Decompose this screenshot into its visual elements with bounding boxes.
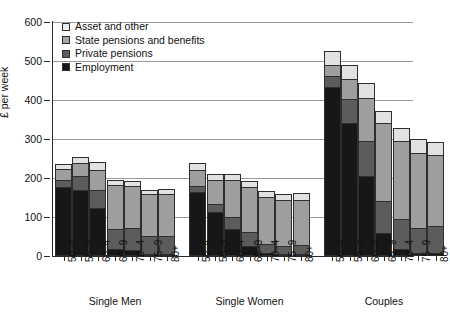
x-tick-label: 70–4 [405,240,415,262]
bar-segment-asset [376,112,391,124]
bar-segment-private [376,201,391,233]
bar-segment-state [411,153,426,229]
group-label-single-women: Single Women [189,295,309,307]
x-tick-label: 55–9 [85,240,95,262]
bar-segment-state [294,200,309,245]
x-tick [284,256,285,261]
y-tick-label-0: 0 [36,251,42,261]
x-tick-label: 70–4 [271,240,281,262]
bar-segment-private [225,217,240,229]
bar-segment-state [208,180,223,204]
bar-segment-asset [359,84,374,98]
x-tick [198,256,199,261]
bar-segment-private [208,204,223,212]
y-tick-label-300: 300 [24,134,42,144]
x-tick-label: 75–9 [154,240,164,262]
legend-item: Private pensions [62,47,205,61]
legend-label: Private pensions [75,48,153,59]
x-tick [418,256,419,261]
x-tick-label: 65–9 [119,240,129,262]
x-tick [232,256,233,261]
bar-segment-private [359,141,374,176]
y-tick-400 [44,100,50,101]
x-tick [64,256,65,261]
x-tick-label: 60–4 [102,240,112,262]
x-tick-label: 80+ [440,245,450,262]
y-tick-0 [44,256,50,257]
x-tick [301,256,302,261]
x-tick-label: 60–4 [236,240,246,262]
bar-segment-asset [90,163,105,170]
bar [358,83,375,256]
bar-segment-asset [411,140,426,152]
bar-segment-private [56,180,71,187]
x-tick-label: 50–4 [68,240,78,262]
bar-segment-asset [342,66,357,79]
chart-legend: Asset and otherState pensions and benefi… [62,20,205,74]
legend-label: Asset and other [75,21,149,32]
x-tick [132,256,133,261]
bar-segment-asset [325,52,340,65]
legend-swatch-employ [62,63,70,71]
legend-item: Asset and other [62,20,205,34]
bar-segment-state [56,169,71,180]
y-tick-label-100: 100 [24,212,42,222]
legend-label: Employment [75,62,133,73]
x-tick-label: 55–9 [354,240,364,262]
bar-segment-private [73,176,88,191]
bar-segment-state [159,194,174,236]
bar-segment-asset [394,129,409,141]
bar [375,111,392,256]
y-tick-200 [44,178,50,179]
y-tick-label-200: 200 [24,173,42,183]
y-axis-title: £ per week [0,67,10,118]
bar-segment-state [342,79,357,99]
x-tick [215,256,216,261]
y-tick-100 [44,217,50,218]
bar-segment-state [73,163,88,175]
x-tick-label: 80+ [305,245,315,262]
x-tick [250,256,251,261]
bar-segment-private [342,99,357,123]
x-tick-label: 70–4 [136,240,146,262]
x-tick-label: 80+ [171,245,181,262]
bar-segment-state [225,180,240,217]
x-tick-label: 50–4 [336,240,346,262]
x-tick-label: 65–9 [388,240,398,262]
bar-segment-state [242,187,257,233]
x-tick [167,256,168,261]
y-tick-600 [44,22,50,23]
bar-segment-private [90,190,105,208]
bar [324,51,341,256]
group-label-couples: Couples [324,295,444,307]
x-tick [115,256,116,261]
bar-segment-state [259,197,274,244]
bar-segment-state [376,123,391,201]
y-axis-tick-labels: 0100200300400500600 [0,0,50,321]
bar-segment-employ [325,87,340,255]
bar [410,139,427,256]
bar-segment-state [428,155,443,226]
group-label-single-men: Single Men [55,295,175,307]
bar-segment-state [190,170,205,186]
bar-segment-state [325,65,340,76]
x-tick [81,256,82,261]
legend-swatch-asset [62,23,70,31]
legend-item: State pensions and benefits [62,34,205,48]
x-tick-label: 60–4 [371,240,381,262]
x-tick [150,256,151,261]
bar-segment-asset [428,143,443,156]
bar-segment-state [142,194,157,236]
legend-swatch-private [62,50,70,58]
bar [393,128,410,256]
y-tick-500 [44,61,50,62]
x-tick [401,256,402,261]
x-tick [98,256,99,261]
x-tick [436,256,437,261]
x-tick [350,256,351,261]
y-tick-300 [44,139,50,140]
y-tick-label-600: 600 [24,17,42,27]
x-tick-label: 65–9 [254,240,264,262]
x-tick [384,256,385,261]
